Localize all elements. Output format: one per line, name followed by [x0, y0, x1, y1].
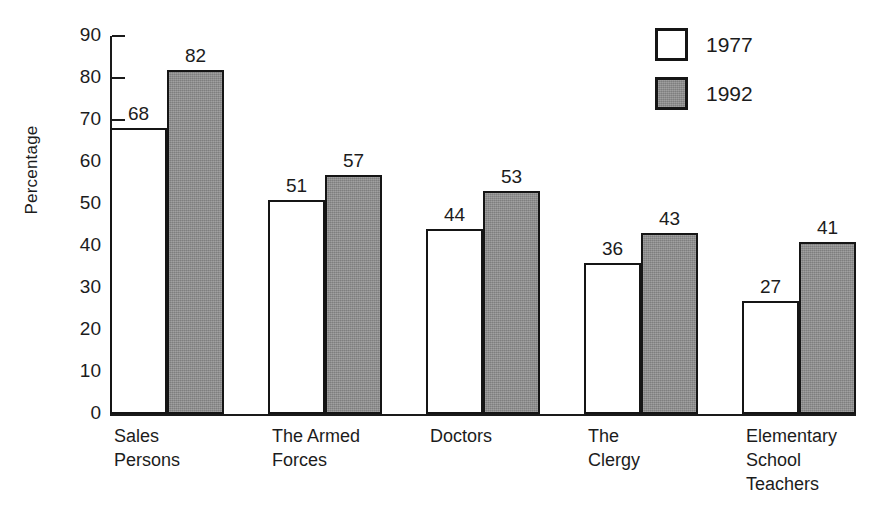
y-tick-label: 0	[90, 403, 101, 423]
y-axis-title: Percentage	[22, 90, 42, 250]
y-tick-label: 40	[80, 235, 101, 255]
bar-chart: Percentage 0102030405060708090 688251574…	[0, 0, 883, 518]
bar-value-label: 53	[501, 167, 522, 187]
legend-item-1977: 1977	[655, 28, 753, 61]
legend-item-1992: 1992	[655, 77, 753, 110]
category-gap	[224, 424, 268, 516]
y-tick-label: 80	[80, 67, 101, 87]
bar-value-label: 57	[343, 151, 364, 171]
bar-value-label: 36	[602, 239, 623, 259]
white-square-swatch-icon	[655, 28, 688, 61]
bar-group: 5157	[268, 36, 382, 414]
y-tick-label: 70	[80, 109, 101, 129]
y-tick-label: 60	[80, 151, 101, 171]
y-tick-label: 20	[80, 319, 101, 339]
bar-value-label: 27	[760, 277, 781, 297]
x-axis-category-labels: Sales PersonsThe Armed ForcesDoctorsThe …	[110, 424, 856, 516]
bar-value-label: 82	[185, 46, 206, 66]
bar-1977-3: 44	[426, 229, 483, 414]
legend: 1977 1992	[655, 28, 753, 126]
bar-1992-1: 82	[167, 70, 224, 414]
bar-group: 4453	[426, 36, 540, 414]
category-gap	[540, 424, 584, 516]
category-gap	[698, 424, 742, 516]
bar-1992-2: 57	[325, 175, 382, 414]
bar-group: 6882	[110, 36, 224, 414]
category-label: The Armed Forces	[268, 424, 382, 516]
bar-1977-2: 51	[268, 200, 325, 414]
y-tick-label: 10	[80, 361, 101, 381]
bar-1992-5: 41	[799, 242, 856, 414]
bar-1977-4: 36	[584, 263, 641, 414]
bar-value-label: 44	[444, 205, 465, 225]
bar-value-label: 68	[128, 104, 149, 124]
bar-value-label: 41	[817, 218, 838, 238]
y-tick-label: 30	[80, 277, 101, 297]
y-tick-label: 50	[80, 193, 101, 213]
legend-label-1977: 1977	[706, 34, 753, 56]
category-label: Sales Persons	[110, 424, 224, 516]
y-tick-label: 90	[80, 25, 101, 45]
category-label: The Clergy	[584, 424, 698, 516]
category-label: Elementary School Teachers	[742, 424, 856, 516]
category-label: Doctors	[426, 424, 540, 516]
category-gap	[382, 424, 426, 516]
bar-group: 2741	[742, 36, 856, 414]
bar-value-label: 51	[286, 176, 307, 196]
bar-value-label: 43	[659, 209, 680, 229]
gray-square-swatch-icon	[655, 77, 688, 110]
bar-1977-1: 68	[110, 128, 167, 414]
legend-label-1992: 1992	[706, 83, 753, 105]
bar-1992-3: 53	[483, 191, 540, 414]
bar-1992-4: 43	[641, 233, 698, 414]
x-axis-line	[110, 414, 856, 416]
bar-1977-5: 27	[742, 301, 799, 414]
